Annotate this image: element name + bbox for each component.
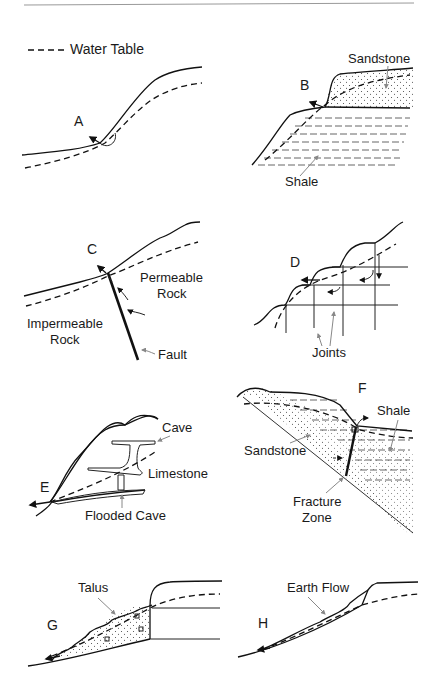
panel-c-rock-label-2: Rock <box>50 332 80 347</box>
springs-diagram: Water Table A B Sandstone Shale <box>0 0 436 693</box>
panel-d-joints-label: Joints <box>312 345 346 360</box>
panel-h-earth-flow-label: Earth Flow <box>287 580 350 595</box>
panel-b: B Sandstone Shale <box>250 51 413 189</box>
legend-water-table-label: Water Table <box>70 41 144 57</box>
header-rule <box>24 3 414 5</box>
panel-f-shale-label: Shale <box>377 403 410 418</box>
panel-e-limestone-label: Limestone <box>148 466 208 481</box>
panel-f-zone-label: Zone <box>302 510 332 525</box>
panel-g-talus-label: Talus <box>78 580 109 595</box>
panel-c-rock-label-1: Rock <box>157 286 187 301</box>
panel-a-label: A <box>74 113 84 129</box>
panel-f-fracture-label: Fracture <box>293 494 341 509</box>
panel-c-label: C <box>87 241 97 257</box>
panel-b-sandstone-label: Sandstone <box>348 51 410 66</box>
panel-e: E Cave Limestone Flooded Cave <box>30 415 208 523</box>
panel-f-label: F <box>358 380 367 396</box>
panel-f: F Shale Sandstone Fracture Zone <box>237 380 420 535</box>
panel-e-flooded-cave-label: Flooded Cave <box>85 508 166 523</box>
panel-e-cave-label: Cave <box>162 420 192 435</box>
legend: Water Table <box>28 41 144 57</box>
panel-d-label: D <box>290 254 300 270</box>
panel-c: C Permeable Rock Impermeable Rock Fault <box>24 222 203 362</box>
panel-b-label: B <box>300 77 309 93</box>
panel-h: H Earth Flow <box>238 580 418 657</box>
panel-a: A <box>22 67 202 168</box>
panel-b-shale-label: Shale <box>285 174 318 189</box>
panel-f-sandstone-label: Sandstone <box>244 443 306 458</box>
panel-g: G Talus <box>28 580 222 666</box>
panel-c-fault-label: Fault <box>158 347 187 362</box>
panel-g-label: G <box>47 617 58 633</box>
panel-c-impermeable-label: Impermeable <box>27 316 103 331</box>
panel-c-permeable-label: Permeable <box>140 270 203 285</box>
panel-d: D Joints <box>254 222 408 360</box>
panel-h-label: H <box>258 615 268 631</box>
panel-e-label: E <box>40 479 49 495</box>
